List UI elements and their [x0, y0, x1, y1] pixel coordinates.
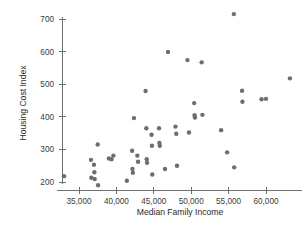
data-point — [193, 115, 197, 119]
y-tick-label: 300 — [40, 145, 54, 154]
x-tick-label: 60,000 — [253, 197, 278, 206]
data-point — [199, 60, 203, 64]
data-point — [145, 161, 149, 165]
data-point — [288, 76, 292, 80]
data-point — [259, 97, 263, 101]
data-point — [136, 160, 140, 164]
data-point — [240, 89, 244, 93]
data-point — [150, 144, 154, 148]
x-tick-label: 40,000 — [104, 197, 129, 206]
data-point — [96, 183, 100, 187]
data-point — [232, 165, 236, 169]
data-point — [175, 164, 179, 168]
data-point — [130, 149, 134, 153]
data-point — [173, 124, 177, 128]
x-tick-group: 35,00040,00045,00050,00055,00060,000 — [66, 187, 278, 206]
x-tick-label: 35,000 — [66, 197, 91, 206]
data-point — [174, 132, 178, 136]
data-point — [149, 133, 153, 137]
x-axis: 35,00040,00045,00050,00055,00060,000 — [57, 187, 302, 206]
data-point — [219, 128, 223, 132]
y-tick-label: 600 — [40, 48, 54, 57]
data-point — [163, 167, 167, 171]
y-axis-title: Housing Cost Index — [18, 65, 28, 141]
data-point — [125, 178, 129, 182]
data-point — [192, 101, 196, 105]
data-point — [144, 126, 148, 130]
data-point — [111, 153, 115, 157]
data-point — [89, 158, 93, 162]
data-point — [187, 130, 191, 134]
x-tick-label: 55,000 — [216, 197, 241, 206]
y-tick-label: 700 — [40, 15, 54, 24]
scatter-plot-figure: 200300400500600700 35,00040,00045,00050,… — [0, 0, 308, 236]
y-tick-label: 500 — [40, 80, 54, 89]
data-point — [130, 167, 134, 171]
data-point — [158, 144, 162, 148]
data-points-group — [62, 12, 292, 188]
data-point — [150, 172, 154, 176]
data-point — [92, 163, 96, 167]
plot-canvas: 200300400500600700 35,00040,00045,00050,… — [0, 0, 308, 236]
data-point — [166, 50, 170, 54]
x-axis-title: Median Family Income — [137, 207, 224, 217]
data-point — [143, 89, 147, 93]
y-tick-label: 200 — [40, 178, 54, 187]
data-point — [225, 150, 229, 154]
y-axis: 200300400500600700 — [40, 15, 66, 187]
data-point — [135, 153, 139, 157]
data-point — [240, 100, 244, 104]
data-point — [264, 97, 268, 101]
data-point — [132, 116, 136, 120]
data-point — [62, 174, 66, 178]
data-point — [96, 142, 100, 146]
data-point — [157, 126, 161, 130]
data-point — [131, 171, 135, 175]
data-point — [200, 113, 204, 117]
data-point — [93, 177, 97, 181]
x-tick-label: 50,000 — [179, 197, 204, 206]
data-point — [92, 170, 96, 174]
x-tick-label: 45,000 — [141, 197, 166, 206]
data-point — [185, 58, 189, 62]
y-tick-label: 400 — [40, 113, 54, 122]
data-point — [232, 12, 236, 16]
